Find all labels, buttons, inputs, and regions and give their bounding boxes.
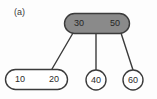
node-leaf-10-20-key-left: 10 [15,74,25,84]
tree-diagram-figure: (a) 30 50 10 20 40 60 [0,0,157,99]
tree-diagram-canvas: (a) 30 50 10 20 40 60 [0,0,157,99]
node-root[interactable]: 30 50 [65,14,130,34]
edge-root-to-leaf-10-20 [52,33,73,69]
node-leaf-60[interactable]: 60 [123,70,143,90]
node-root-key-right: 50 [110,18,120,28]
node-leaf-40-key: 40 [91,75,101,85]
node-root-key-left: 30 [74,18,84,28]
node-leaf-60-key: 60 [128,75,138,85]
node-leaf-10-20-key-right: 20 [49,74,59,84]
panel-label: (a) [14,7,25,17]
node-leaf-10-20[interactable]: 10 20 [6,70,68,90]
node-leaf-40[interactable]: 40 [86,70,106,90]
edge-root-to-leaf-60 [121,33,133,70]
